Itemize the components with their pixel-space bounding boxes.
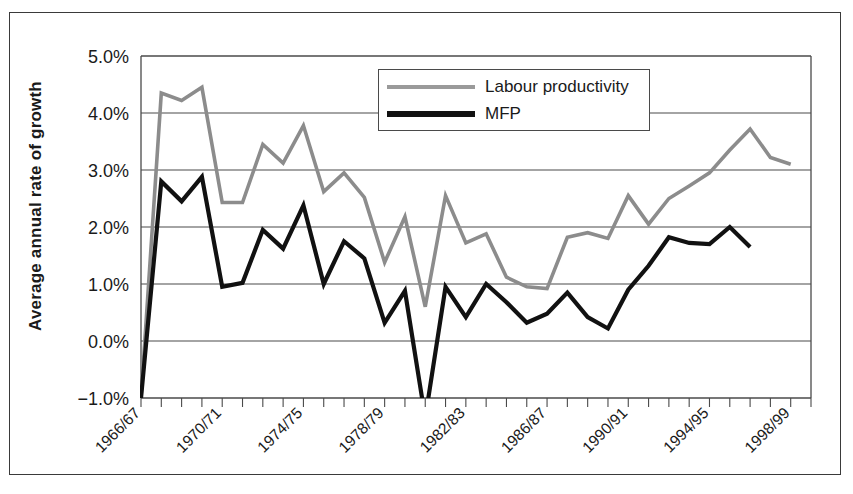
y-tick-label: 1.0% — [88, 275, 129, 295]
legend-label-mfp: MFP — [485, 105, 521, 122]
y-tick-label: 5.0% — [88, 47, 129, 67]
chart-legend: Labour productivity MFP — [378, 69, 650, 131]
x-tick-label: 1974/75 — [254, 404, 306, 456]
figure-container: Average annual rate of growth 5.0%4.0%3.… — [0, 0, 853, 494]
y-tick-label: −1.0% — [77, 389, 129, 409]
y-tick-label: 4.0% — [88, 104, 129, 124]
legend-swatch-labour-productivity — [387, 85, 475, 89]
y-tick-label: 2.0% — [88, 218, 129, 238]
x-tick-label: 1966/67 — [91, 404, 143, 456]
x-tick-label: 1982/83 — [416, 404, 468, 456]
x-tick-label: 1970/71 — [173, 404, 225, 456]
legend-item-mfp: MFP — [387, 102, 641, 126]
y-tick-label: 3.0% — [88, 161, 129, 181]
legend-swatch-mfp — [387, 111, 475, 117]
x-tick-label: 1998/99 — [741, 404, 793, 456]
legend-label-labour-productivity: Labour productivity — [485, 78, 629, 95]
x-tick-label: 1990/91 — [579, 404, 631, 456]
x-tick-label: 1986/87 — [498, 404, 550, 456]
y-tick-label: 0.0% — [88, 332, 129, 352]
legend-item-labour-productivity: Labour productivity — [387, 75, 641, 99]
x-tick-label: 1994/95 — [660, 404, 712, 456]
x-tick-label: 1978/79 — [335, 404, 387, 456]
